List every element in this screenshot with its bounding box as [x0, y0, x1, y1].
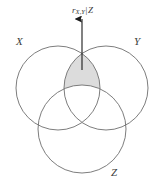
set-label-y: Y [134, 36, 140, 47]
venn-diagram-figure: X Y Z rX,Y|Z [0, 0, 165, 189]
set-label-z: Z [111, 167, 117, 178]
partial-correlation-label: rX,Y|Z [0, 6, 165, 16]
set-label-x: X [16, 36, 23, 47]
venn-diagram-canvas [0, 0, 165, 189]
label-subscript-xy: X,Y [76, 8, 86, 15]
label-conditioned-z: Z [88, 5, 93, 15]
